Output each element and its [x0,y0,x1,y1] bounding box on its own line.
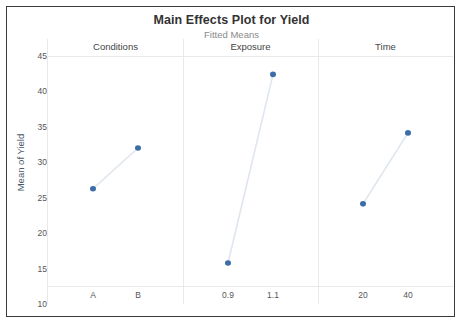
data-point[interactable] [360,201,366,207]
y-axis-ticks: 1015202530354045 [23,7,47,318]
panel-header-label: Conditions [48,39,183,57]
y-tick-label: 25 [25,193,47,203]
data-point[interactable] [135,145,141,151]
series-plot [318,56,453,286]
data-point[interactable] [225,260,231,266]
panel-time: Time2040 [318,39,453,304]
panel-divider [183,39,184,304]
series-line [228,74,273,263]
series-line [363,133,408,204]
panel-header-label: Exposure [183,39,318,57]
panel-conditions: ConditionsAB [48,39,183,304]
y-tick-label: 20 [25,228,47,238]
series-plot [48,56,183,286]
x-tick-label: 20 [358,290,367,300]
y-tick-label: 15 [25,264,47,274]
y-tick-label: 45 [25,51,47,61]
data-point[interactable] [90,186,96,192]
x-tick-label: 0.9 [222,290,234,300]
y-tick-label: 40 [25,86,47,96]
x-axis-ticks: AB [48,287,183,304]
x-tick-label: B [135,290,141,300]
panel-plot-area [48,56,183,287]
panel-exposure: Exposure0.91.1 [183,39,318,304]
panel-plot-area [183,56,318,287]
x-tick-label: 1.1 [267,290,279,300]
x-tick-label: 40 [403,290,412,300]
x-axis-ticks: 2040 [318,287,453,304]
data-point[interactable] [405,130,411,136]
series-plot [183,56,318,286]
panel-plot-area [318,56,453,287]
series-line [93,148,138,189]
chart-title: Main Effects Plot for Yield [7,13,456,27]
panel-header-label: Time [318,39,453,57]
data-point[interactable] [270,72,276,78]
panel-divider [318,39,319,304]
chart-figure: Main Effects Plot for Yield Fitted Means… [6,6,455,317]
y-tick-label: 30 [25,157,47,167]
x-axis-ticks: 0.91.1 [183,287,318,304]
y-tick-label: 35 [25,122,47,132]
x-tick-label: A [90,290,96,300]
y-tick-label: 10 [25,299,47,309]
